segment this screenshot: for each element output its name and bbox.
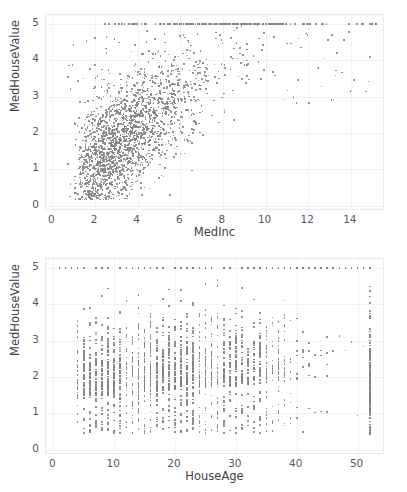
y-tick-label: 2	[13, 369, 39, 381]
y-axis-title-medhousevalue-top: MedHouseValue	[8, 20, 22, 112]
x-tick-label: 2	[74, 213, 114, 225]
y-tick-label: 2	[13, 125, 39, 137]
x-axis-title-houseage: HouseAge	[45, 469, 384, 483]
x-tick-label: 0	[31, 213, 71, 225]
y-tick-label: 1	[13, 405, 39, 417]
x-tick-label: 40	[276, 457, 316, 469]
plot-area-houseage	[45, 258, 384, 454]
y-tick-label: 0	[13, 198, 39, 210]
scatter-plot-figure: 02468101214 012345 MedInc MedHouseValue …	[0, 0, 407, 492]
x-tick-label: 12	[287, 213, 327, 225]
data-points-houseage	[46, 259, 383, 453]
x-tick-label: 20	[154, 457, 194, 469]
x-axis-title-medinc: MedInc	[45, 225, 384, 239]
x-tick-label: 4	[117, 213, 157, 225]
plot-area-medinc	[45, 14, 384, 210]
y-tick-label: 0	[13, 442, 39, 454]
chart-panel-houseage: 01020304050 012345 HouseAge MedHouseValu…	[0, 247, 407, 492]
y-axis-title-medhousevalue-bottom: MedHouseValue	[8, 264, 22, 356]
x-tick-label: 10	[93, 457, 133, 469]
y-tick-label: 1	[13, 161, 39, 173]
x-tick-label: 50	[337, 457, 377, 469]
x-tick-label: 8	[202, 213, 242, 225]
x-tick-label: 10	[245, 213, 285, 225]
x-tick-label: 6	[159, 213, 199, 225]
chart-panel-medinc: 02468101214 012345 MedInc MedHouseValue	[0, 0, 407, 245]
data-points-medinc	[46, 15, 383, 209]
x-tick-label: 0	[32, 457, 72, 469]
x-tick-label: 30	[215, 457, 255, 469]
x-tick-label: 14	[330, 213, 370, 225]
